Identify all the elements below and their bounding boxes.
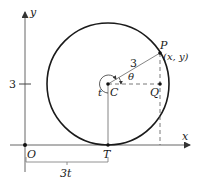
point-t: [106, 143, 110, 147]
y-tick-label: 3: [9, 78, 16, 91]
y-axis-label: y: [29, 6, 37, 19]
x-axis-label: x: [182, 130, 189, 143]
radius-label: 3: [130, 57, 137, 70]
distance-label: 3t: [60, 167, 72, 180]
p-coords-label: (x, y): [163, 51, 189, 62]
point-o: [23, 143, 27, 147]
distance-bracket: [26, 157, 108, 162]
q-label: Q: [150, 86, 159, 99]
origin-label: O: [27, 148, 36, 161]
cycloid-diagram: y x 3 O C P (x, y) Q T 3 θ t 3t: [0, 0, 198, 186]
theta-arc: [119, 78, 121, 85]
theta-label: θ: [128, 71, 134, 82]
t-point-label: T: [103, 148, 112, 161]
center-label: C: [110, 86, 119, 99]
t-angle-label: t: [98, 87, 103, 98]
